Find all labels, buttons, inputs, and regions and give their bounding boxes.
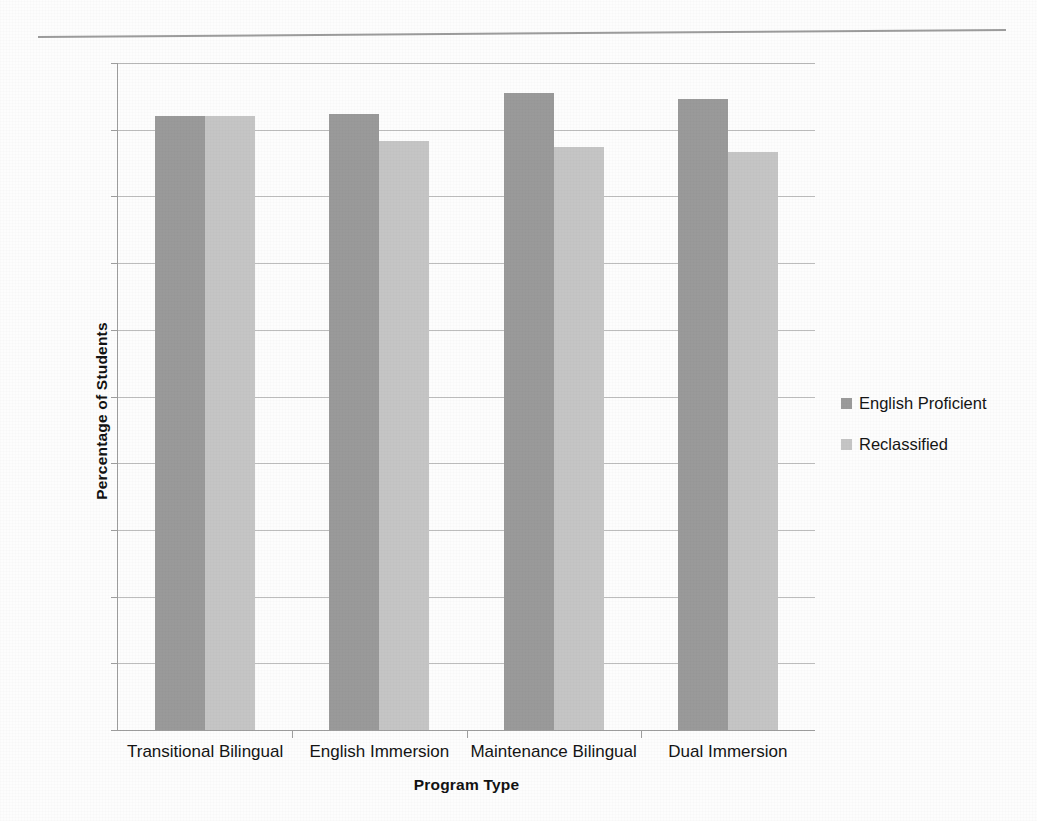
- plot-area: [118, 63, 815, 730]
- y-axis-tick: [111, 663, 118, 664]
- x-axis-category-label: Dual Immersion: [641, 742, 815, 762]
- chart-page: Percentage of Students Program Type 0%10…: [0, 0, 1037, 821]
- y-axis-tick: [111, 330, 118, 331]
- legend-swatch-icon: [841, 439, 852, 450]
- x-axis-category-label: English Immersion: [292, 742, 466, 762]
- bar: [155, 116, 205, 730]
- bar: [329, 114, 379, 730]
- legend-label: English Proficient: [859, 394, 986, 413]
- bar: [379, 141, 429, 730]
- bar: [728, 152, 778, 730]
- bar: [205, 116, 255, 730]
- legend-item: English Proficient: [841, 394, 986, 413]
- bar: [504, 93, 554, 730]
- x-axis-category-label: Maintenance Bilingual: [467, 742, 641, 762]
- y-axis-tick: [111, 397, 118, 398]
- y-axis-tick: [111, 196, 118, 197]
- y-axis-tick: [111, 730, 118, 731]
- y-axis-tick: [111, 530, 118, 531]
- x-axis-tick: [641, 730, 642, 738]
- x-axis-tick: [467, 730, 468, 738]
- legend-item: Reclassified: [841, 435, 986, 454]
- y-axis-tick: [111, 263, 118, 264]
- y-axis-tick: [111, 597, 118, 598]
- bar: [678, 99, 728, 730]
- page-top-rule: [38, 29, 1006, 38]
- x-axis-category-label: Transitional Bilingual: [118, 742, 292, 762]
- x-axis-tick: [292, 730, 293, 738]
- legend-swatch-icon: [841, 398, 852, 409]
- y-axis-title: Percentage of Students: [93, 322, 111, 500]
- chart-legend: English ProficientReclassified: [841, 394, 986, 476]
- bar: [554, 147, 604, 730]
- legend-label: Reclassified: [859, 435, 948, 454]
- gridline: [118, 63, 815, 64]
- x-axis-title: Program Type: [0, 776, 933, 794]
- y-axis-tick: [111, 463, 118, 464]
- y-axis-tick: [111, 63, 118, 64]
- y-axis-tick: [111, 130, 118, 131]
